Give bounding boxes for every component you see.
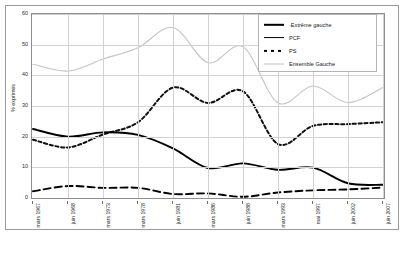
gridline-vertical [173,14,174,198]
x-tick-mark [102,201,103,204]
y-tick-label: 50 [22,41,28,47]
x-tick-label: juin 2007 [385,203,391,224]
y-tick-label: 60 [22,10,28,16]
x-tick-label: mars 1978 [140,203,146,228]
legend-item-label: PCF [289,35,300,41]
x-tick-mark [67,201,68,204]
legend-swatch-icon [263,33,285,42]
y-tick-label: 10 [22,163,28,169]
x-tick-label: mars 1973 [105,203,111,228]
gridline-vertical [68,14,69,198]
x-tick-mark [207,201,208,204]
x-tick-mark [277,201,278,204]
legend-swatch-icon [263,20,285,29]
x-tick-label: mars 1967 [35,203,41,228]
x-tick-mark [242,201,243,204]
chart-legend: ·Extrême gauchePCFPSEnsemble Gauche [258,14,377,72]
x-tick-mark [347,201,348,204]
y-tick-label: 0 [25,194,28,200]
y-tick-label: 30 [22,102,28,108]
y-tick-label: 40 [22,71,28,77]
legend-item-label: PS [289,48,296,54]
x-tick-label: juin 1981 [175,203,181,224]
x-tick-mark [382,201,383,204]
gridline-vertical [243,14,244,198]
x-tick-mark [172,201,173,204]
legend-ps[interactable]: PS [263,44,372,57]
x-tick-label: juin 2002 [350,203,356,224]
gridline-vertical [103,14,104,198]
legend-item-label: ·Extrême gauche [289,22,332,28]
legend-ensemble-gauche[interactable]: Ensemble Gauche [263,57,372,70]
legend-extreme-gauche[interactable]: ·Extrême gauche [263,18,372,31]
x-tick-label: juin 1968 [70,203,76,224]
gridline-vertical [138,14,139,198]
screenshot-root: 0102030405060 % exprimés mars 1967juin 1… [0,0,406,255]
x-tick-label: mai 1997 [315,203,321,224]
x-tick-label: mars 1986 [210,203,216,228]
x-tick-mark [32,201,33,204]
legend-pcf[interactable]: PCF [263,31,372,44]
legend-item-label: Ensemble Gauche [289,61,335,67]
gridline-vertical [208,14,209,198]
y-axis-title: % exprimés [10,68,16,128]
x-axis-ticks: mars 1967juin 1968mars 1973mars 1978juin… [31,201,385,247]
x-tick-label: mars 1993 [280,203,286,228]
x-tick-mark [137,201,138,204]
x-tick-label: juin 1988 [245,203,251,224]
gridline-vertical [383,14,384,198]
legend-swatch-icon [263,59,285,68]
legend-swatch-icon [263,46,285,55]
y-tick-label: 20 [22,133,28,139]
x-tick-mark [312,201,313,204]
